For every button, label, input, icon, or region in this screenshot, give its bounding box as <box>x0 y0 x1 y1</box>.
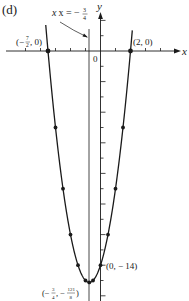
x-axis-arrow-icon <box>174 49 181 54</box>
data-point <box>99 263 103 267</box>
data-point <box>69 233 73 237</box>
svg-text:3: 3 <box>52 287 55 292</box>
data-point <box>91 279 95 283</box>
svg-text:8: 8 <box>70 295 73 300</box>
y-axis-arrow-icon <box>98 12 103 19</box>
data-point <box>114 187 118 191</box>
y-intercept-label: (0, − 14) <box>106 261 137 271</box>
svg-text:(−: (− <box>16 37 24 47</box>
left-root-label: (− 7 2 , 0) <box>16 35 42 48</box>
svg-text:3: 3 <box>83 7 86 13</box>
svg-text:, −: , − <box>56 288 65 298</box>
data-point <box>54 126 58 130</box>
svg-text:2: 2 <box>26 42 29 48</box>
arrowhead-icon <box>83 34 89 38</box>
data-point <box>128 49 133 54</box>
panel-label: (d) <box>2 2 17 17</box>
annotation-arrow <box>60 22 87 37</box>
y-axis-label: y <box>96 0 102 12</box>
svg-text:): ) <box>76 288 79 298</box>
vertex-label: (− 3 4 , − 121 8 ) <box>42 287 79 300</box>
parabola-chart: (d) x y 0 xx = − 3 4 (− 7 2 , 0) (2, 0) … <box>0 0 189 301</box>
svg-text:4: 4 <box>83 15 86 21</box>
data-point <box>76 263 80 267</box>
origin-label: 0 <box>93 54 98 64</box>
right-root-label: (2, 0) <box>133 37 153 47</box>
data-point <box>61 187 65 191</box>
data-point <box>121 126 125 130</box>
svg-text:, 0): , 0) <box>30 37 42 47</box>
svg-text:121: 121 <box>68 287 76 292</box>
axis-of-symmetry-label: xx = − 3 4 <box>51 7 88 21</box>
data-point <box>84 279 88 283</box>
svg-text:xx = −: xx = − <box>51 7 80 18</box>
svg-text:4: 4 <box>52 295 55 300</box>
svg-text:7: 7 <box>26 35 29 41</box>
data-point <box>106 233 110 237</box>
data-point <box>87 281 91 285</box>
x-axis-label: x <box>181 45 187 57</box>
svg-text:(−: (− <box>42 288 50 298</box>
data-point <box>46 49 51 54</box>
